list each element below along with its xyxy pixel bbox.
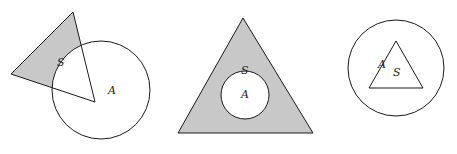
label-a: A xyxy=(107,84,116,97)
figure-left: S A xyxy=(11,12,150,139)
diagram-canvas: S A S A A S xyxy=(0,0,457,154)
figure-right: A S xyxy=(348,20,444,116)
label-s: S xyxy=(57,56,65,69)
label-s: S xyxy=(393,66,401,79)
label-s: S xyxy=(241,64,249,77)
label-a: A xyxy=(240,88,249,101)
figure-middle: S A xyxy=(178,18,313,133)
label-a: A xyxy=(377,58,386,71)
